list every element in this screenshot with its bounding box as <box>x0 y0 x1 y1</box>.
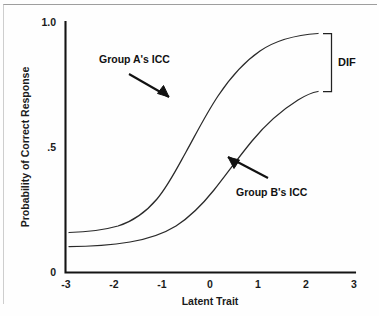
dif-bracket <box>323 34 332 92</box>
y-axis-title: Probability of Correct Response <box>19 67 31 228</box>
x-tick-label-0: 0 <box>207 278 213 290</box>
x-tick-label-1: 1 <box>255 278 261 290</box>
group-a-annotation-label: Group A's ICC <box>99 53 170 65</box>
dif-label: DIF <box>338 56 356 68</box>
y-tick-label-1: 1.0 <box>41 16 56 28</box>
y-tick-label-0-5: .5 <box>47 141 56 153</box>
x-tick-label-neg3: -3 <box>61 278 70 290</box>
curve-group-b <box>69 92 318 247</box>
group-b-arrow-icon <box>228 157 268 178</box>
x-tick-label-2: 2 <box>303 278 309 290</box>
group-b-annotation-label: Group B's ICC <box>236 186 308 198</box>
dif-bracket-shape <box>323 34 332 92</box>
x-axis-title: Latent Trait <box>182 295 239 307</box>
x-tick-label-neg1: -1 <box>157 278 166 290</box>
x-tick-label-neg2: -2 <box>109 278 118 290</box>
icc-dif-figure: 1.0 .5 0 -3 -2 -1 0 1 2 3 Latent Trait P… <box>0 0 379 316</box>
y-tick-label-0: 0 <box>50 266 56 278</box>
x-tick-label-3: 3 <box>351 278 357 290</box>
chart-canvas: 1.0 .5 0 -3 -2 -1 0 1 2 3 Latent Trait P… <box>0 0 379 316</box>
group-a-arrow-icon <box>129 74 169 97</box>
